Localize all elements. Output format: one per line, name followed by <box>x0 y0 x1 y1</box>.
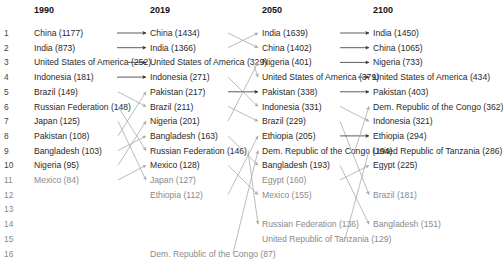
rank-change-arrows <box>0 0 494 269</box>
